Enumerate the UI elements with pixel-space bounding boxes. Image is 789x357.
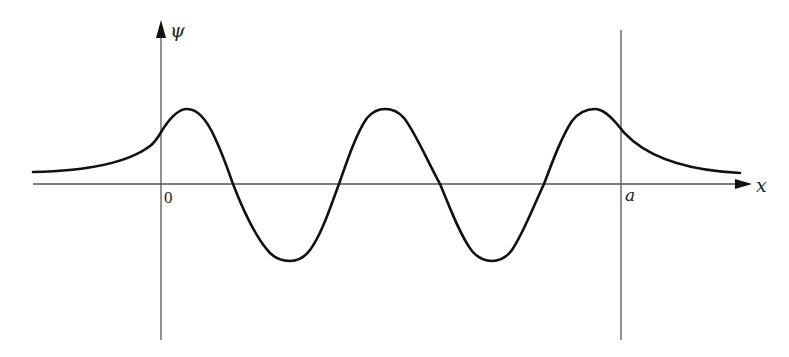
y-axis-arrow-icon xyxy=(156,20,166,38)
x-axis-label: x xyxy=(756,174,767,196)
x-axis-arrow-icon xyxy=(735,179,752,189)
origin-label: 0 xyxy=(164,188,173,207)
well-edge-label: a xyxy=(625,185,635,205)
y-axis-label: ψ xyxy=(170,19,186,41)
wavefunction-diagram: ψ x 0 a xyxy=(0,0,789,357)
